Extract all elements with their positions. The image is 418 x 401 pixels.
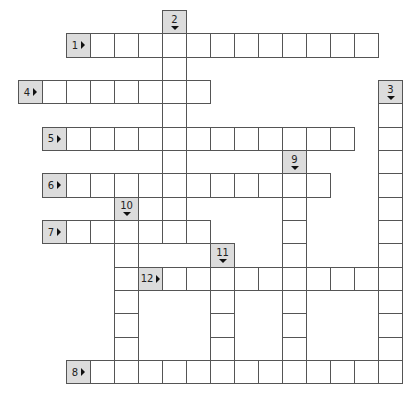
- answer-cell[interactable]: [378, 220, 403, 244]
- answer-cell[interactable]: [378, 360, 403, 384]
- answer-cell[interactable]: [282, 173, 307, 197]
- answer-cell[interactable]: [378, 150, 403, 174]
- answer-cell[interactable]: [330, 267, 355, 291]
- answer-cell[interactable]: [186, 173, 211, 197]
- answer-cell[interactable]: [66, 80, 91, 104]
- clue-11-down[interactable]: 11: [210, 243, 235, 267]
- answer-cell[interactable]: [138, 127, 163, 151]
- answer-cell[interactable]: [210, 33, 235, 57]
- answer-cell[interactable]: [186, 220, 211, 244]
- answer-cell[interactable]: [114, 267, 139, 291]
- answer-cell[interactable]: [234, 33, 259, 57]
- answer-cell[interactable]: [258, 267, 283, 291]
- clue-1-across[interactable]: 1: [66, 33, 91, 57]
- answer-cell[interactable]: [234, 267, 259, 291]
- answer-cell[interactable]: [90, 80, 115, 104]
- answer-cell[interactable]: [162, 33, 187, 57]
- clue-7-across[interactable]: 7: [42, 220, 67, 244]
- clue-6-across[interactable]: 6: [42, 173, 67, 197]
- answer-cell[interactable]: [258, 33, 283, 57]
- answer-cell[interactable]: [378, 197, 403, 221]
- answer-cell[interactable]: [138, 220, 163, 244]
- answer-cell[interactable]: [306, 173, 331, 197]
- answer-cell[interactable]: [282, 197, 307, 221]
- answer-cell[interactable]: [282, 313, 307, 337]
- answer-cell[interactable]: [210, 313, 235, 337]
- answer-cell[interactable]: [234, 360, 259, 384]
- answer-cell[interactable]: [210, 173, 235, 197]
- answer-cell[interactable]: [210, 290, 235, 314]
- answer-cell[interactable]: [378, 290, 403, 314]
- answer-cell[interactable]: [114, 220, 139, 244]
- answer-cell[interactable]: [234, 127, 259, 151]
- answer-cell[interactable]: [66, 220, 91, 244]
- clue-4-across[interactable]: 4: [18, 80, 43, 104]
- answer-cell[interactable]: [378, 127, 403, 151]
- answer-cell[interactable]: [210, 360, 235, 384]
- answer-cell[interactable]: [186, 360, 211, 384]
- answer-cell[interactable]: [258, 127, 283, 151]
- answer-cell[interactable]: [378, 313, 403, 337]
- answer-cell[interactable]: [66, 127, 91, 151]
- answer-cell[interactable]: [354, 360, 379, 384]
- answer-cell[interactable]: [378, 243, 403, 267]
- answer-cell[interactable]: [114, 33, 139, 57]
- clue-3-down[interactable]: 3: [378, 80, 403, 104]
- answer-cell[interactable]: [306, 33, 331, 57]
- answer-cell[interactable]: [114, 290, 139, 314]
- answer-cell[interactable]: [90, 173, 115, 197]
- answer-cell[interactable]: [90, 127, 115, 151]
- answer-cell[interactable]: [282, 337, 307, 361]
- answer-cell[interactable]: [162, 220, 187, 244]
- answer-cell[interactable]: [42, 80, 67, 104]
- answer-cell[interactable]: [186, 127, 211, 151]
- answer-cell[interactable]: [258, 173, 283, 197]
- answer-cell[interactable]: [210, 337, 235, 361]
- answer-cell[interactable]: [306, 127, 331, 151]
- answer-cell[interactable]: [330, 33, 355, 57]
- clue-5-across[interactable]: 5: [42, 127, 67, 151]
- answer-cell[interactable]: [378, 173, 403, 197]
- answer-cell[interactable]: [162, 103, 187, 127]
- answer-cell[interactable]: [210, 127, 235, 151]
- answer-cell[interactable]: [210, 267, 235, 291]
- answer-cell[interactable]: [354, 267, 379, 291]
- answer-cell[interactable]: [282, 290, 307, 314]
- answer-cell[interactable]: [114, 337, 139, 361]
- answer-cell[interactable]: [162, 57, 187, 81]
- answer-cell[interactable]: [114, 360, 139, 384]
- answer-cell[interactable]: [114, 243, 139, 267]
- answer-cell[interactable]: [162, 267, 187, 291]
- answer-cell[interactable]: [282, 33, 307, 57]
- answer-cell[interactable]: [138, 33, 163, 57]
- answer-cell[interactable]: [378, 103, 403, 127]
- answer-cell[interactable]: [258, 360, 283, 384]
- answer-cell[interactable]: [282, 267, 307, 291]
- answer-cell[interactable]: [282, 360, 307, 384]
- answer-cell[interactable]: [306, 360, 331, 384]
- answer-cell[interactable]: [378, 337, 403, 361]
- answer-cell[interactable]: [234, 173, 259, 197]
- answer-cell[interactable]: [90, 220, 115, 244]
- answer-cell[interactable]: [282, 243, 307, 267]
- answer-cell[interactable]: [354, 33, 379, 57]
- answer-cell[interactable]: [114, 127, 139, 151]
- answer-cell[interactable]: [162, 150, 187, 174]
- answer-cell[interactable]: [162, 360, 187, 384]
- answer-cell[interactable]: [90, 360, 115, 384]
- answer-cell[interactable]: [162, 127, 187, 151]
- answer-cell[interactable]: [138, 360, 163, 384]
- answer-cell[interactable]: [186, 267, 211, 291]
- answer-cell[interactable]: [162, 173, 187, 197]
- answer-cell[interactable]: [282, 127, 307, 151]
- answer-cell[interactable]: [114, 313, 139, 337]
- answer-cell[interactable]: [186, 33, 211, 57]
- clue-9-down[interactable]: 9: [282, 150, 307, 174]
- clue-8-across[interactable]: 8: [66, 360, 91, 384]
- answer-cell[interactable]: [114, 80, 139, 104]
- answer-cell[interactable]: [378, 267, 403, 291]
- answer-cell[interactable]: [330, 360, 355, 384]
- answer-cell[interactable]: [282, 220, 307, 244]
- answer-cell[interactable]: [138, 80, 163, 104]
- answer-cell[interactable]: [162, 197, 187, 221]
